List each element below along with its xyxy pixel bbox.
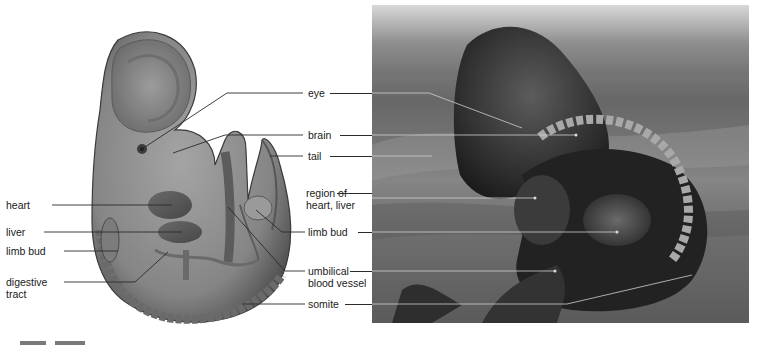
label-heart: heart — [6, 199, 30, 211]
label-brain: brain — [306, 129, 333, 141]
leader-somite — [345, 304, 372, 305]
leader-region — [337, 193, 372, 194]
label-digestive-tract-line1: digestive — [6, 276, 47, 288]
label-tail: tail — [306, 150, 323, 162]
label-umbilical-line2: blood vessel — [308, 277, 366, 289]
label-limb-bud: limb bud — [6, 245, 46, 257]
embryo-micrograph — [372, 5, 749, 323]
label-digestive-tract-line2: tract — [6, 288, 26, 300]
caption-fragment-2 — [55, 341, 85, 345]
label-eye: eye — [306, 87, 327, 99]
figure: heart liver limb bud digestive tract eye… — [0, 0, 759, 345]
leader-brain — [340, 135, 372, 136]
leader-limb-bud-photo — [358, 232, 372, 233]
label-region-heart-liver-line2: heart, liver — [306, 199, 355, 211]
label-liver: liver — [6, 226, 25, 238]
caption-fragment — [20, 341, 46, 345]
label-limb-bud-photo: limb bud — [308, 226, 348, 238]
leader-umbilical — [350, 271, 372, 272]
label-umbilical-line1: umbilical — [308, 265, 349, 277]
embryo-drawing — [0, 0, 372, 345]
leader-eye — [330, 93, 372, 94]
leader-tail — [330, 156, 372, 157]
label-somite: somite — [308, 298, 339, 310]
